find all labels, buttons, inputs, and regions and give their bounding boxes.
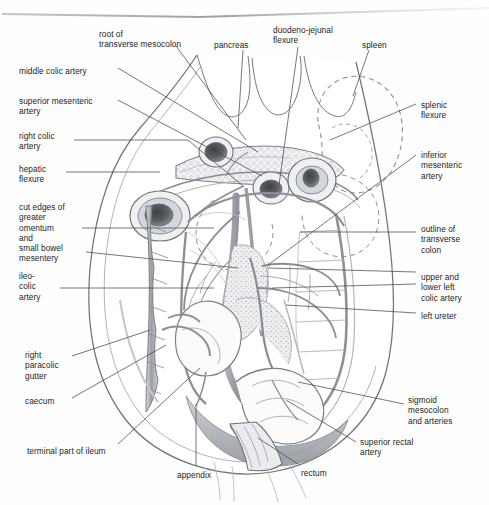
label-splenic-flexure: splenic flexure	[421, 100, 447, 121]
label-caecum: caecum	[25, 396, 54, 406]
label-superior-mesenteric-artery: superior mesenteric artery	[19, 96, 93, 117]
cut-bowel-duodeno-jejunal	[253, 172, 289, 204]
label-left-ureter: left ureter	[421, 311, 457, 321]
caecum	[175, 301, 241, 376]
label-outline-of-transverse-colon: outline of transverse colon	[421, 224, 460, 255]
label-terminal-part-of-ileum: terminal part of ileum	[27, 446, 106, 456]
label-sigmoid-mesocolon-and-arteries: sigmoid mesocolon and arteries	[408, 395, 452, 426]
label-appendix: appendix	[177, 470, 211, 480]
label-hepatic-flexure: hepatic flexure	[19, 164, 46, 185]
anatomy-figure-page: root of transverse mesocolonpancreasduod…	[0, 0, 489, 505]
label-duodeno-jejunal-flexure: duodeno-jejunal flexure	[273, 25, 333, 46]
label-ileo-colic-artery: ileo- colic artery	[19, 271, 41, 302]
label-pancreas: pancreas	[214, 40, 249, 50]
label-cut-edges-of-greater-omentum-and-small-bowel-mesentery: cut edges of greater omentum and small b…	[19, 202, 65, 264]
label-right-paracolic-gutter: right paracolic gutter	[25, 350, 59, 381]
label-right-colic-artery: right colic artery	[19, 131, 55, 152]
label-middle-colic-artery: middle colic artery	[19, 66, 87, 76]
label-root-of-transverse-mesocolon: root of transverse mesocolon	[99, 29, 181, 50]
scan-page-edge	[2, 8, 489, 17]
label-inferior-mesenteric-artery: inferior mesenteric artery	[421, 150, 462, 181]
abdominal-cavity	[89, 55, 403, 502]
label-superior-rectal-artery: superior rectal artery	[360, 437, 413, 458]
label-upper-and-lower-left-colic-artery: upper and lower left colic artery	[421, 272, 462, 303]
label-rectum: rectum	[301, 468, 327, 478]
label-spleen: spleen	[362, 40, 387, 50]
cut-bowel-hepatic-flexure	[130, 191, 190, 241]
